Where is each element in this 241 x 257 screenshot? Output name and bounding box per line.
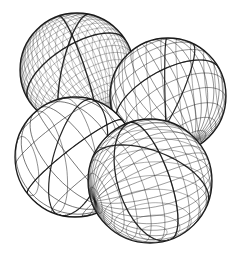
figure-canvas: [0, 0, 241, 257]
geodesic-spheres-illustration: [0, 0, 241, 257]
bottom-right-geodesic-sphere: [88, 119, 212, 243]
